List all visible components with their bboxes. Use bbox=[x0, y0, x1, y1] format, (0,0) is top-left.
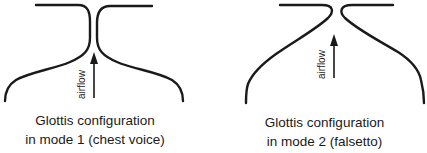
mode2-airflow-label: airflow bbox=[317, 50, 327, 79]
mode1-caption-line2: in mode 1 (chest voice) bbox=[0, 130, 190, 149]
mode1-airflow-label: airflow bbox=[77, 70, 87, 99]
mode2-caption: Glottis configuration in mode 2 (falsett… bbox=[222, 113, 427, 151]
mode2-caption-line1: Glottis configuration bbox=[222, 113, 427, 132]
mode2-caption-line2: in mode 2 (falsetto) bbox=[222, 132, 427, 151]
panel-mode1-chest-voice: airflow Glottis configuration in mode 1 … bbox=[0, 0, 213, 153]
mode1-caption-line1: Glottis configuration bbox=[0, 111, 190, 130]
mode1-caption: Glottis configuration in mode 1 (chest v… bbox=[0, 111, 190, 149]
